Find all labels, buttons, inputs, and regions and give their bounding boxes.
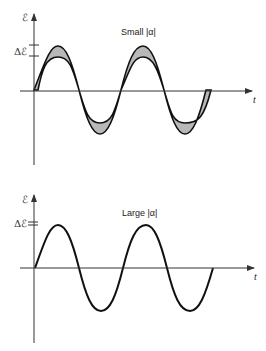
x-axis-label: t [253,94,256,105]
panel-large-alpha: ℰ Δℰ Large |α| t [14,194,257,343]
y-axis-label: ℰ [22,12,28,23]
panel-small-alpha: ℰ Δℰ Small |α| t [14,12,256,165]
panel-title: Small |α| [121,27,156,37]
uncertainty-band [34,46,211,134]
panel-title: Large |α| [122,208,157,218]
delta-label: Δℰ [14,218,27,229]
figure: ℰ Δℰ Small |α| t ℰ Δℰ Large |α| t [0,0,266,351]
delta-label: Δℰ [14,46,27,57]
y-axis-label: ℰ [22,194,28,205]
x-axis-label: t [254,271,257,282]
